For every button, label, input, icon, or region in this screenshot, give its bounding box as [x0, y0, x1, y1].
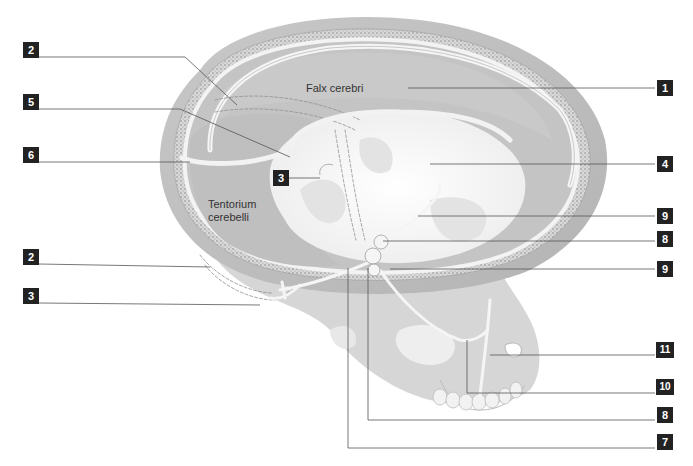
- callout-label-3-bottom: 3: [23, 288, 39, 304]
- region-label-tentorium-line2: cerebelli: [208, 211, 256, 224]
- callout-label-2-bottom: 2: [23, 249, 39, 265]
- region-label-falx-cerebri: Falx cerebri: [306, 82, 363, 95]
- callout-label-8-top: 8: [657, 231, 673, 247]
- callout-label-4: 4: [657, 156, 673, 172]
- region-label-tentorium: Tentorium cerebelli: [208, 198, 256, 224]
- callout-label-2-top: 2: [23, 42, 39, 58]
- callout-label-1: 1: [657, 80, 673, 96]
- anatomy-figure: Falx cerebri Tentorium cerebelli 2 5 6 3…: [0, 0, 693, 466]
- callout-label-3-center: 3: [273, 170, 289, 186]
- callout-label-9-top: 9: [657, 208, 673, 224]
- callout-label-9-bottom: 9: [657, 261, 673, 277]
- callout-label-7: 7: [657, 434, 673, 450]
- callout-label-6: 6: [23, 147, 39, 163]
- callout-label-8-bottom: 8: [657, 407, 673, 423]
- callout-label-5: 5: [23, 94, 39, 110]
- skull-illustration: [0, 0, 693, 466]
- callout-label-11: 11: [656, 342, 674, 358]
- callout-label-10: 10: [656, 379, 674, 395]
- region-label-tentorium-line1: Tentorium: [208, 198, 256, 211]
